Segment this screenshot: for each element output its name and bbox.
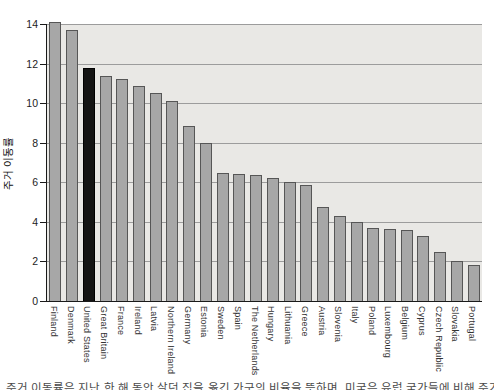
y-tick-mark: [40, 261, 46, 262]
bar: [317, 207, 329, 301]
y-tick-mark: [40, 222, 46, 223]
bar: [233, 174, 245, 301]
x-axis-label: Ireland: [133, 306, 143, 335]
x-axis-label: The Netherlands: [250, 306, 260, 376]
gridline: [47, 143, 482, 144]
plot-area: [46, 24, 482, 302]
x-axis-label: Latvia: [149, 306, 159, 331]
bar: [434, 252, 446, 301]
x-axis-label: Czech Republic: [434, 306, 444, 372]
x-axis-label: Estonia: [199, 306, 209, 337]
bar-highlight-united-states: [83, 68, 95, 301]
bar: [417, 236, 429, 301]
bar: [367, 228, 379, 301]
x-axis-label: Slovakia: [450, 306, 460, 342]
x-axis-label: Portugal: [467, 306, 477, 341]
y-tick-label: 14: [8, 18, 38, 30]
y-tick-mark: [40, 182, 46, 183]
bar: [133, 86, 145, 301]
bar: [66, 30, 78, 301]
x-axis-label: Great Britain: [99, 306, 109, 359]
x-axis-label: Sweden: [216, 306, 226, 340]
y-tick-label: 2: [8, 255, 38, 267]
bar: [116, 79, 128, 301]
x-axis-label: Lithuania: [283, 306, 293, 344]
bar: [451, 261, 463, 301]
y-tick-label: 4: [8, 216, 38, 228]
bar: [401, 230, 413, 301]
x-axis-label: Hungary: [266, 306, 276, 341]
y-tick-mark: [40, 24, 46, 25]
bar: [150, 93, 162, 301]
y-tick-label: 10: [8, 97, 38, 109]
x-axis-label: Cyprus: [417, 306, 427, 336]
y-tick-label: 8: [8, 137, 38, 149]
y-tick-mark: [40, 64, 46, 65]
x-axis-label: Austria: [317, 306, 327, 335]
x-axis-label: Northern Ireland: [166, 306, 176, 374]
bar: [250, 175, 262, 301]
y-tick-mark: [40, 301, 46, 302]
bar: [166, 101, 178, 301]
gridline: [47, 64, 482, 65]
bar: [183, 126, 195, 301]
x-axis-label: Greece: [300, 306, 310, 337]
bar: [284, 182, 296, 301]
bar: [468, 265, 480, 301]
bar: [200, 143, 212, 301]
y-tick-label: 12: [8, 58, 38, 70]
bar: [351, 222, 363, 301]
y-tick-label: 0: [8, 295, 38, 307]
x-axis-label: United States: [82, 306, 92, 363]
gridline: [47, 222, 482, 223]
gridline: [47, 24, 482, 25]
gridline: [47, 182, 482, 183]
x-axis-label: Poland: [367, 306, 377, 335]
bar: [300, 185, 312, 301]
bar: [267, 178, 279, 301]
x-axis-label: Denmark: [66, 306, 76, 344]
bar: [100, 76, 112, 301]
bar: [217, 173, 229, 301]
y-tick-label: 6: [8, 176, 38, 188]
x-axis-label: Belgium: [400, 306, 410, 340]
bar: [384, 229, 396, 301]
bar: [334, 216, 346, 301]
caption-cutoff: 주거 이동률은 지난 한 해 동안 살던 집을 옮긴 가구의 비율을 뜻하며, …: [6, 381, 494, 390]
bar: [49, 22, 61, 301]
x-axis-label: Luxembourg: [383, 306, 393, 358]
x-axis-label: Finland: [49, 306, 59, 337]
y-tick-mark: [40, 103, 46, 104]
x-axis-label: France: [116, 306, 126, 335]
gridline: [47, 103, 482, 104]
x-axis-label: Italy: [350, 306, 360, 324]
y-axis-title: 주거 이동률: [0, 119, 15, 209]
bar-chart-figure: 주거 이동률 02468101214 FinlandDenmarkUnited …: [0, 0, 496, 390]
x-axis-label: Germany: [183, 306, 193, 344]
x-axis-label: Spain: [233, 306, 243, 330]
y-tick-mark: [40, 143, 46, 144]
x-axis-label: Slovenia: [333, 306, 343, 342]
